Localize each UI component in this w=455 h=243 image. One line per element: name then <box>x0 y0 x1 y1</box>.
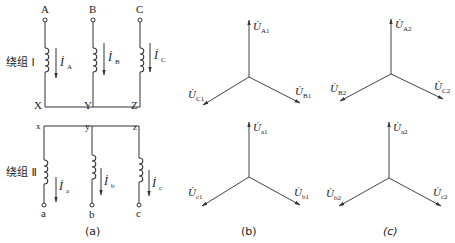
neutral-label-y: y <box>85 121 90 132</box>
current-c-subscript: c <box>159 184 162 192</box>
terminal-label-B: B <box>89 3 96 15</box>
neutral-label-Y: Y <box>84 99 92 111</box>
neutral-label-X: X <box>34 99 42 111</box>
winding-2: 绕组 Ⅱ x y z İ a a <box>6 121 162 220</box>
phasor-Ub2-subscript: b2 <box>334 194 342 202</box>
winding-1: 绕组 Ⅰ A B C İ A İ <box>6 3 166 111</box>
phasor-UA1-subscript: A1 <box>261 27 270 35</box>
current-A-symbol: İ <box>59 55 65 69</box>
terminal-label-a: a <box>41 207 46 219</box>
current-B-symbol: İ <box>107 50 113 64</box>
terminal-label-c: c <box>136 207 141 219</box>
phase-A-branch: İ A <box>43 18 72 107</box>
neutral-label-Z: Z <box>131 99 138 111</box>
phasor-UC1-arrow-icon <box>203 77 249 105</box>
neutral-label-x: x <box>36 121 41 131</box>
neutral-label-z: z <box>133 122 137 132</box>
coil-C-icon <box>140 48 144 72</box>
coil-A-icon <box>45 48 49 72</box>
coil-c-icon <box>139 158 143 182</box>
phasor-Uc1-arrow-icon <box>202 177 249 206</box>
caption-a: (a) <box>85 225 100 238</box>
phasor-Ub1-subscript: b1 <box>302 193 310 201</box>
phasor-UB1-arrow-icon <box>249 77 300 103</box>
phasor-star-c-top: U̇ A2 U̇ B2 U̇ C2 <box>330 18 451 101</box>
terminal-label-b: b <box>89 208 95 220</box>
current-a-subscript: a <box>66 187 70 195</box>
phase-c-branch: İ c c <box>136 126 162 219</box>
winding-2-label: 绕组 Ⅱ <box>6 165 37 179</box>
coil-b-icon <box>92 155 96 179</box>
current-C-subscript: C <box>161 56 166 64</box>
phasor-Uc1-subscript: c1 <box>196 193 203 201</box>
panel-b-phasor-diagrams: U̇ A1 U̇ C1 U̇ B1 U̇ a1 U̇ c1 U̇ b1 (b) <box>188 20 312 238</box>
current-a-symbol: İ <box>58 179 64 193</box>
phasor-UB2-arrow-icon <box>340 74 391 101</box>
phasor-UB2-subscript: B2 <box>338 89 347 97</box>
coil-a-icon <box>44 160 48 184</box>
phase-C-branch: İ C <box>138 18 166 107</box>
terminal-b-icon <box>90 203 94 207</box>
current-B-subscript: B <box>115 58 120 66</box>
phasor-star-b-top: U̇ A1 U̇ C1 U̇ B1 <box>188 20 312 105</box>
phasor-UC1-subscript: C1 <box>196 95 205 103</box>
phasor-Ub2-arrow-icon <box>339 178 389 206</box>
current-C-symbol: İ <box>153 48 159 62</box>
phasor-star-c-bottom: U̇ a2 U̇ b2 U̇ c2 <box>326 121 448 206</box>
phase-B-branch: İ B <box>91 18 120 107</box>
caption-b: (b) <box>241 225 257 238</box>
current-b-subscript: b <box>111 182 115 190</box>
caption-c: (c) <box>383 225 398 238</box>
terminal-A-icon <box>43 18 47 22</box>
phasor-Ua1-subscript: a1 <box>261 128 268 136</box>
coil-B-icon <box>93 48 97 72</box>
phasor-Uc2-subscript: c2 <box>441 193 448 201</box>
transformer-phasor-figure: 绕组 Ⅰ A B C İ A İ <box>0 0 455 243</box>
winding-1-label: 绕组 Ⅰ <box>6 55 35 69</box>
current-c-symbol: İ <box>151 176 157 190</box>
phasor-Ub1-arrow-icon <box>249 177 300 205</box>
current-A-subscript: A <box>67 63 72 71</box>
phasor-UB1-subscript: B1 <box>303 92 312 100</box>
terminal-label-C: C <box>136 3 143 15</box>
phasor-star-b-bottom: U̇ a1 U̇ c1 U̇ b1 <box>188 121 310 206</box>
phasor-UC2-subscript: C2 <box>442 87 451 95</box>
terminal-B-icon <box>91 18 95 22</box>
phasor-Ua2-subscript: a2 <box>401 128 408 136</box>
terminal-label-A: A <box>41 3 49 15</box>
current-b-symbol: İ <box>103 174 109 188</box>
panel-a-winding-diagram: 绕组 Ⅰ A B C İ A İ <box>6 3 166 238</box>
panel-c-phasor-diagrams: U̇ A2 U̇ B2 U̇ C2 U̇ a2 U̇ b2 U̇ c2 (c) <box>326 18 451 238</box>
phasor-UA2-subscript: A2 <box>403 25 412 33</box>
phase-a-branch: İ a a <box>41 126 70 219</box>
phase-b-branch: İ b b <box>89 126 115 220</box>
terminal-C-icon <box>138 18 142 22</box>
